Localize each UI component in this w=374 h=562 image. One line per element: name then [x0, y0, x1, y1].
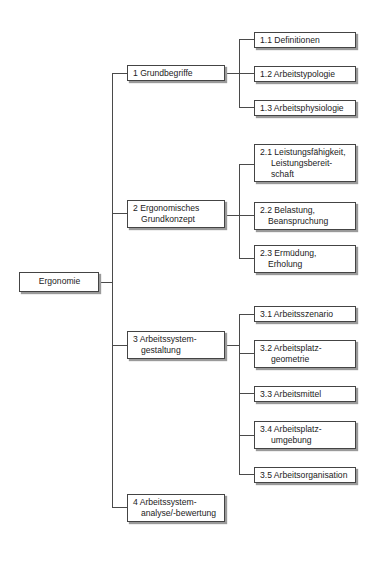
- node-ergonomisches-grundkonzept: 2 Ergonomisches Grundkonzept: [127, 200, 225, 228]
- connector-3-2: [239, 353, 254, 354]
- node-label-cont: Leistungsbereit-: [260, 158, 351, 169]
- node-2-1-leistungsfaehigkeit: 2.1 Leistungsfähigkeit, Leistungsbereit-…: [254, 144, 356, 182]
- connector-3-5: [239, 474, 254, 475]
- node-label: 2.2 Belastung,: [260, 205, 315, 215]
- connector-1-1: [239, 39, 254, 40]
- node-label: 2.3 Ermüdung,: [260, 248, 316, 258]
- connector-root: [99, 282, 112, 283]
- connector-l1-4: [112, 507, 127, 508]
- connector-3-3: [239, 393, 254, 394]
- node-label-cont: Erholung: [260, 259, 351, 270]
- connector-l1-2: [112, 213, 127, 214]
- node-label-cont: geometrie: [260, 354, 351, 365]
- node-1-1-definitionen: 1.1 Definitionen: [254, 32, 356, 48]
- node-label: 3.1 Arbeitsszenario: [260, 309, 333, 319]
- connector-g3-out: [225, 345, 239, 346]
- connector-2-2: [239, 215, 254, 216]
- connector-2-1: [239, 164, 254, 165]
- connector-l1-3: [112, 345, 127, 346]
- node-1-2-arbeitstypologie: 1.2 Arbeitstypologie: [254, 66, 356, 82]
- connector-l1-1: [112, 73, 127, 74]
- node-3-5-arbeitsorganisation: 3.5 Arbeitsorganisation: [254, 467, 356, 483]
- node-label: 1.3 Arbeitsphysiologie: [260, 103, 344, 113]
- node-ergonomie: Ergonomie: [19, 272, 99, 292]
- node-3-1-arbeitsszenario: 3.1 Arbeitsszenario: [254, 306, 356, 322]
- node-label: 1 Grundbegriffe: [133, 68, 193, 78]
- node-label-cont: umgebung: [260, 435, 351, 446]
- trunk-g3: [239, 314, 240, 475]
- trunk-g2: [239, 164, 240, 259]
- node-3-2-arbeitsplatzgeometrie: 3.2 Arbeitsplatz- geometrie: [254, 340, 356, 368]
- node-2-2-belastung: 2.2 Belastung, Beanspruchung: [254, 202, 356, 230]
- node-3-4-arbeitsplatzumgebung: 3.4 Arbeitsplatz- umgebung: [254, 421, 356, 449]
- connector-g2-out: [225, 215, 239, 216]
- node-label-cont: Grundkonzept: [133, 214, 220, 225]
- connector-3-4: [239, 435, 254, 436]
- node-label: 3.3 Arbeitsmittel: [260, 389, 321, 399]
- node-label: 3 Arbeitssystem-: [133, 334, 197, 344]
- node-label: Ergonomie: [39, 276, 81, 286]
- node-label-cont: analyse/-bewertung: [133, 508, 220, 519]
- node-label: 3.2 Arbeitsplatz-: [260, 343, 322, 353]
- node-arbeitssystemanalyse: 4 Arbeitssystem- analyse/-bewertung: [127, 494, 225, 522]
- node-label: 4 Arbeitssystem-: [133, 497, 197, 507]
- node-label: 3.4 Arbeitsplatz-: [260, 424, 322, 434]
- node-label-cont: schaft: [260, 169, 351, 180]
- node-2-3-ermuedung: 2.3 Ermüdung, Erholung: [254, 245, 356, 273]
- node-label: 1.1 Definitionen: [260, 35, 320, 45]
- connector-2-3: [239, 258, 254, 259]
- connector-1-2: [239, 73, 254, 74]
- node-label: 2.1 Leistungsfähigkeit,: [260, 147, 346, 157]
- connector-3-1: [239, 314, 254, 315]
- node-1-3-arbeitsphysiologie: 1.3 Arbeitsphysiologie: [254, 100, 356, 116]
- connector-1-3: [239, 107, 254, 108]
- node-label-cont: Beanspruchung: [260, 216, 351, 227]
- connector-g1-out: [225, 73, 239, 74]
- node-arbeitssystemgestaltung: 3 Arbeitssystem- gestaltung: [127, 331, 225, 359]
- node-label-cont: gestaltung: [133, 345, 220, 356]
- node-grundbegriffe: 1 Grundbegriffe: [127, 65, 225, 81]
- node-3-3-arbeitsmittel: 3.3 Arbeitsmittel: [254, 386, 356, 402]
- node-label: 2 Ergonomisches: [133, 203, 199, 213]
- node-label: 1.2 Arbeitstypologie: [260, 69, 335, 79]
- node-label: 3.5 Arbeitsorganisation: [260, 470, 347, 480]
- trunk-level1: [112, 73, 113, 508]
